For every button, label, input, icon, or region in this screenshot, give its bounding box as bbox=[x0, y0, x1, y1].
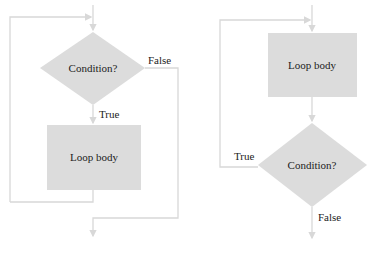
false-label: False bbox=[318, 211, 341, 223]
body-return-line bbox=[10, 190, 93, 202]
process-label: Loop body bbox=[70, 151, 118, 163]
true-label: True bbox=[99, 108, 119, 120]
do-while-loop-diagram: Loop body Condition? True False bbox=[220, 5, 367, 238]
false-label: False bbox=[148, 54, 171, 66]
while-loop-diagram: Condition? True Loop body False bbox=[10, 5, 178, 236]
flowchart-canvas: Condition? True Loop body False Loop bod… bbox=[0, 0, 367, 253]
process-label: Loop body bbox=[288, 59, 336, 71]
true-label: True bbox=[234, 150, 254, 162]
decision-label: Condition? bbox=[69, 62, 118, 74]
decision-label: Condition? bbox=[288, 159, 337, 171]
